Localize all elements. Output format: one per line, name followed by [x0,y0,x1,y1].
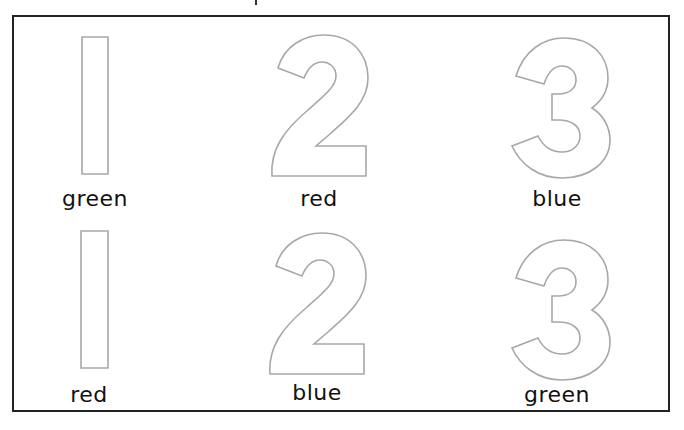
color-word-label: green [457,382,657,407]
numeral-1-outline[interactable] [78,35,112,177]
color-word-label: green [0,186,195,211]
numeral-3-outline[interactable] [504,30,614,180]
color-word-label: blue [217,380,417,405]
color-word-label: red [219,186,419,211]
numeral-2-outline[interactable] [264,30,374,180]
numeral-3-outline[interactable] [504,232,614,382]
color-word-label: red [0,382,189,407]
color-word-label: blue [457,186,657,211]
numeral-2-outline[interactable] [264,228,374,378]
top-edge-mark [255,0,257,5]
numeral-1-outline[interactable] [78,229,112,371]
